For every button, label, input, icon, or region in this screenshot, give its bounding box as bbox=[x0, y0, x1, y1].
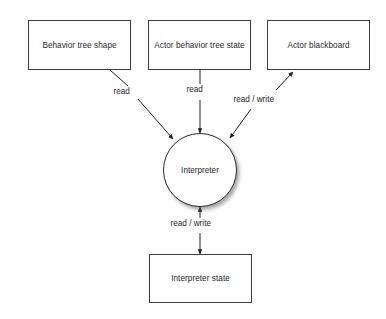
node-interpreter-label: Interpreter bbox=[181, 165, 219, 176]
node-behavior-tree-shape: Behavior tree shape bbox=[28, 20, 131, 70]
node-actor-blackboard-label: Actor blackboard bbox=[287, 40, 349, 51]
node-actor-behavior-tree-state-label: Actor behavior tree state bbox=[154, 40, 244, 51]
node-behavior-tree-shape-label: Behavior tree shape bbox=[42, 40, 116, 51]
edge-label-blackboard-interpreter: read / write bbox=[232, 95, 276, 105]
node-actor-blackboard: Actor blackboard bbox=[267, 20, 370, 70]
node-actor-behavior-tree-state: Actor behavior tree state bbox=[148, 20, 251, 70]
edge-label-interpreter-interpreter-state: read / write bbox=[169, 219, 213, 229]
node-interpreter: Interpreter bbox=[163, 133, 237, 207]
edge-shape-to-interpreter bbox=[110, 70, 173, 139]
edge-label-state-to-interpreter: read bbox=[185, 85, 204, 95]
node-interpreter-state-label: Interpreter state bbox=[171, 273, 230, 284]
diagram-canvas: Behavior tree shape Actor behavior tree … bbox=[0, 0, 386, 319]
node-interpreter-state: Interpreter state bbox=[149, 254, 252, 303]
edge-label-shape-to-interpreter: read bbox=[112, 87, 131, 97]
edge-blackboard-interpreter bbox=[230, 72, 293, 138]
